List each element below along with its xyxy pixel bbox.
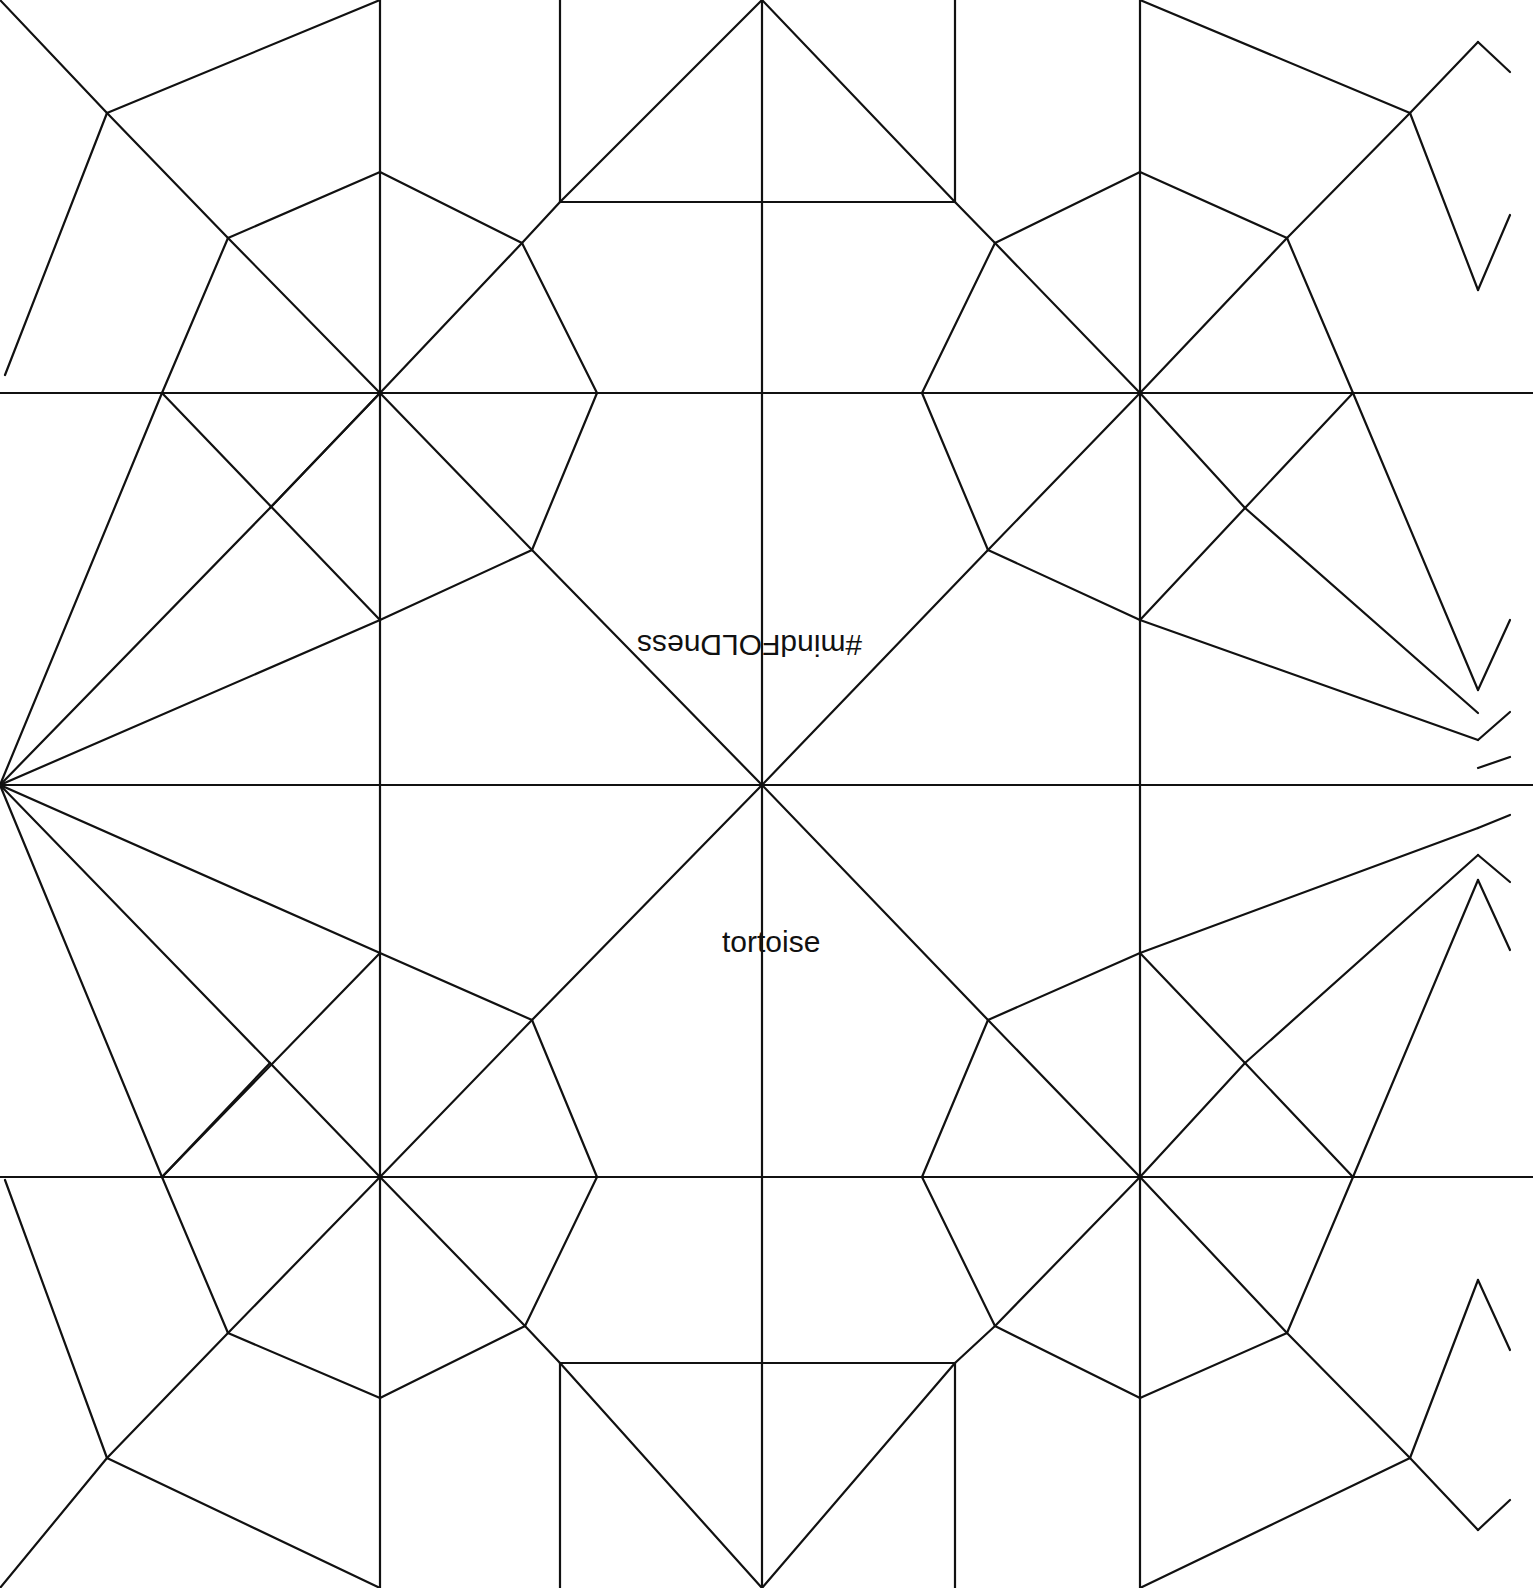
crease-line xyxy=(1478,620,1510,690)
crease-line xyxy=(380,550,532,620)
crease-line xyxy=(5,113,107,375)
crease-line xyxy=(107,1458,380,1588)
crease-line xyxy=(1245,1063,1353,1177)
crease-line xyxy=(995,1326,1140,1398)
crease-line xyxy=(995,172,1140,243)
crease-line xyxy=(1410,113,1478,290)
crease-line xyxy=(228,238,380,393)
crease-line xyxy=(1478,880,1510,950)
crease-line xyxy=(380,1326,525,1398)
crease-line xyxy=(525,1326,560,1363)
crease-line xyxy=(1478,757,1510,768)
crease-line xyxy=(270,1063,380,1177)
crease-line xyxy=(1140,1333,1287,1398)
crease-line xyxy=(162,1177,228,1333)
crease-line xyxy=(532,1020,597,1177)
crease-line xyxy=(955,1326,995,1363)
crease-line xyxy=(0,508,270,785)
crease-line xyxy=(162,238,228,393)
crease-line xyxy=(107,113,228,238)
crease-line xyxy=(1478,42,1510,72)
crease-line xyxy=(560,1363,762,1588)
crease-line xyxy=(1353,393,1478,690)
crease-line xyxy=(270,393,380,508)
crease-line xyxy=(1140,1177,1287,1333)
crease-line xyxy=(1410,1458,1478,1530)
crease-line xyxy=(762,550,988,785)
crease-line xyxy=(762,1363,955,1588)
crease-line xyxy=(1353,880,1478,1177)
crease-line xyxy=(1140,620,1478,740)
crease-line xyxy=(380,1177,525,1326)
crease-line xyxy=(0,0,107,113)
crease-line xyxy=(1140,828,1478,953)
crease-line xyxy=(1478,215,1510,290)
crease-line xyxy=(532,785,762,1020)
crease-line xyxy=(1140,508,1245,620)
crease-line xyxy=(922,393,988,550)
crease-line xyxy=(988,550,1140,620)
crease-line xyxy=(1478,815,1510,828)
crease-line xyxy=(1245,855,1478,1063)
crease-line xyxy=(5,1180,107,1458)
crease-line xyxy=(228,1333,380,1398)
crease-line xyxy=(0,785,380,953)
crease-line xyxy=(380,172,522,243)
crease-line xyxy=(1140,238,1287,393)
crease-line xyxy=(988,1020,1140,1177)
crease-line xyxy=(1140,1458,1410,1588)
crease-line xyxy=(762,785,988,1020)
crease-line xyxy=(1287,113,1410,238)
crease-line xyxy=(107,1333,228,1458)
crease-line xyxy=(1478,1280,1510,1350)
crease-line xyxy=(0,785,162,1177)
crease-line xyxy=(0,785,270,1063)
crease-line xyxy=(0,1458,107,1588)
crease-line xyxy=(1478,1500,1510,1530)
crease-line xyxy=(922,1177,995,1326)
crease-line xyxy=(1140,172,1287,238)
crease-line xyxy=(522,202,560,243)
crease-line xyxy=(1287,1333,1410,1458)
crease-line xyxy=(162,1063,270,1177)
crease-line xyxy=(1287,1177,1353,1333)
crease-line xyxy=(380,393,532,550)
crease-line xyxy=(1140,1063,1245,1177)
crease-line xyxy=(1140,0,1410,113)
crease-line xyxy=(995,1177,1140,1326)
crease-line xyxy=(1287,238,1353,393)
crease-line xyxy=(1245,393,1353,508)
crease-line xyxy=(995,243,1140,393)
crease-line xyxy=(532,393,597,550)
crease-line xyxy=(522,243,597,393)
crease-line xyxy=(1140,393,1245,508)
crease-line xyxy=(525,1177,597,1326)
crease-line xyxy=(380,243,522,393)
crease-line xyxy=(380,1020,532,1177)
crease-line xyxy=(762,0,955,202)
crease-line xyxy=(988,953,1140,1020)
crease-line xyxy=(1478,855,1510,882)
crease-line xyxy=(922,1020,988,1177)
crease-line xyxy=(1140,953,1245,1063)
crease-line xyxy=(1245,508,1478,713)
crease-line xyxy=(988,393,1140,550)
crease-line xyxy=(922,243,995,393)
crease-line xyxy=(955,202,995,243)
crease-line xyxy=(532,550,762,785)
crease-line xyxy=(1410,1280,1478,1458)
crease-pattern xyxy=(0,0,1533,1588)
crease-line xyxy=(1478,712,1510,740)
crease-line xyxy=(107,0,380,113)
crease-line xyxy=(380,953,532,1020)
crease-line xyxy=(228,172,380,238)
title-label: tortoise xyxy=(722,925,820,959)
crease-line xyxy=(1410,42,1478,113)
hashtag-label: #mindFOLDness xyxy=(637,628,862,662)
crease-line xyxy=(228,1177,380,1333)
crease-line xyxy=(560,0,762,202)
